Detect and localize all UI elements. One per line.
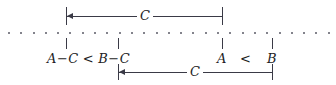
axis-dot [82,32,84,34]
axis-dot [94,32,96,34]
axis-dot [45,32,47,34]
axis-dot [291,32,293,34]
arrow-left-icon [67,13,73,19]
axis-dot [328,32,330,34]
axis-dot [8,32,10,34]
axis-dot [242,32,244,34]
axis-dot [266,32,268,34]
axis-dot [33,32,35,34]
axis-dot [315,32,317,34]
axis-dot [254,32,256,34]
axis-dot [217,32,219,34]
tick-a-minus-c [66,38,67,49]
axis-dot [131,32,133,34]
number-line-inequality-figure: C A−C<B−C A < B C [0,0,336,85]
tick-b-minus-c [118,38,119,49]
axis-dot [119,32,121,34]
axis-dot [106,32,108,34]
tick-a [222,38,223,49]
bottom-measure-bracket: C [0,62,336,85]
dotted-number-line [8,31,330,34]
axis-dot [20,32,22,34]
axis-dot [57,32,59,34]
axis-dot [303,32,305,34]
top-measure-label: C [137,9,153,22]
bottom-measure-right-tick [272,64,273,80]
axis-dot [229,32,231,34]
axis-dot [168,32,170,34]
top-measure-right-tick [222,7,223,25]
axis-dot [279,32,281,34]
axis-dot [69,32,71,34]
axis-dot [192,32,194,34]
axis-dot [156,32,158,34]
bottom-measure-label: C [187,65,203,78]
top-measure-bracket: C [0,0,336,30]
arrow-left-icon [119,69,125,75]
axis-dot [180,32,182,34]
axis-dot [205,32,207,34]
axis-dot [143,32,145,34]
tick-b [272,38,273,49]
